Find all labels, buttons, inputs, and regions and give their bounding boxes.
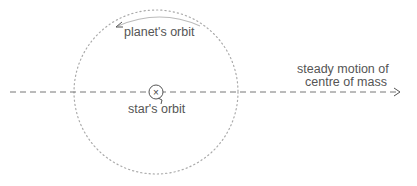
orbit-diagram: ×	[0, 0, 417, 186]
centre-of-mass-label-line2: centre of mass	[305, 75, 387, 89]
star-orbit-label: star's orbit	[128, 102, 185, 116]
planet-orbit-label: planet's orbit	[124, 25, 194, 39]
star-marker-icon: ×	[153, 87, 159, 98]
centre-of-mass-label-line1: steady motion of	[297, 62, 389, 76]
